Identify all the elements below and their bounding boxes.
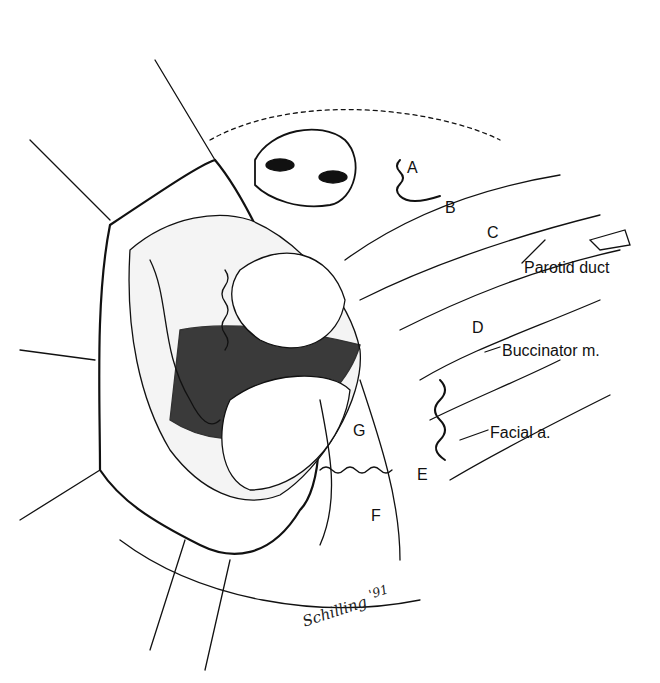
label-parotid-duct: Parotid duct — [524, 260, 609, 276]
label-buccinator-muscle: Buccinator m. — [502, 343, 600, 359]
label-g: G — [353, 423, 365, 439]
label-a: A — [407, 160, 418, 176]
label-d: D — [472, 320, 484, 336]
label-e: E — [417, 467, 428, 483]
label-b: B — [445, 200, 456, 216]
label-facial-artery: Facial a. — [490, 425, 550, 441]
label-c: C — [487, 225, 499, 241]
retractor-line — [155, 60, 215, 160]
label-f: F — [371, 508, 381, 524]
